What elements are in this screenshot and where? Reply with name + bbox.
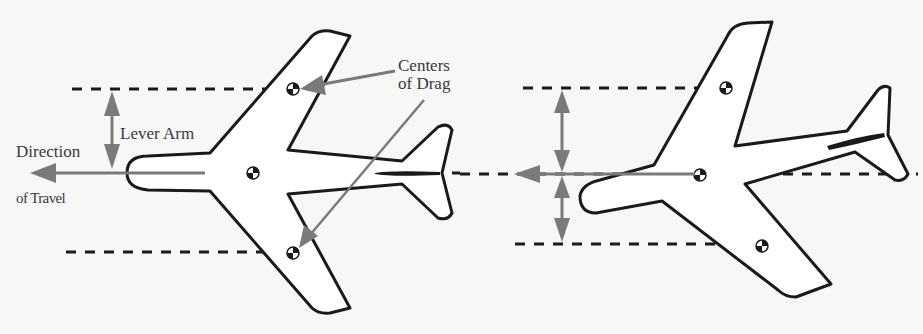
airplane-outline: [580, 22, 908, 297]
direction-label: Direction: [16, 142, 81, 161]
lever-arm-arrowhead-up-icon: [104, 91, 120, 116]
right-airplane-diagram: [460, 22, 918, 297]
exhaust-mark: [375, 171, 440, 176]
drag-center-icon: [287, 83, 299, 95]
upper-arrowhead-up-icon: [554, 90, 570, 113]
lower-arrowhead-up-icon: [554, 176, 570, 198]
drag-center-icon: [720, 82, 732, 94]
lever-arm-arrowhead-down-icon: [104, 144, 120, 169]
drag-center-icon: [756, 240, 768, 252]
upper-arrowhead-down-icon: [554, 150, 570, 172]
center-of-gravity-icon: [247, 167, 259, 179]
lower-arrowhead-down-icon: [554, 218, 570, 242]
direction-arrowhead-icon: [30, 163, 56, 183]
of-travel-label: of Travel: [16, 190, 66, 206]
drag-center-icon: [287, 247, 299, 259]
lever-arm-label: Lever Arm: [120, 124, 194, 143]
center-of-gravity-icon: [694, 169, 706, 181]
diagram-canvas: Lever Arm Direction of Travel Centers of…: [0, 0, 923, 334]
of-drag-label: of Drag: [398, 74, 451, 93]
left-airplane-diagram: Lever Arm Direction of Travel Centers of…: [16, 31, 460, 313]
centers-label: Centers: [398, 56, 450, 75]
direction-arrowhead-icon: [514, 165, 540, 183]
